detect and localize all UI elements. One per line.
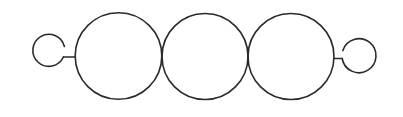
left-hook <box>33 34 75 66</box>
large-circles-group <box>75 13 334 100</box>
large-circle-1 <box>75 13 162 100</box>
diagram-canvas <box>0 0 403 117</box>
large-circle-2 <box>162 14 248 100</box>
right-hook <box>334 39 376 73</box>
large-circle-3 <box>248 14 334 100</box>
right-hook-ring <box>342 39 376 73</box>
left-hook-ring <box>33 34 65 66</box>
chain-diagram <box>0 0 403 117</box>
